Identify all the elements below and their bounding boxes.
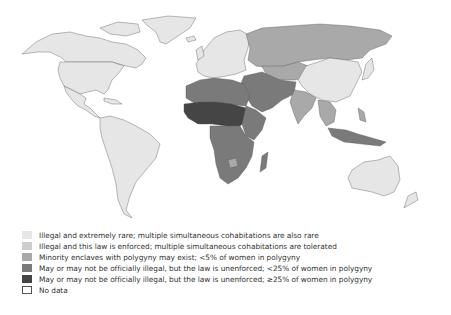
region-botswana — [228, 158, 238, 168]
legend-item: May or may not be officially illegal, bu… — [22, 274, 372, 285]
region-new-zealand — [404, 192, 418, 208]
region-south-america — [100, 116, 160, 218]
legend-swatch — [22, 253, 32, 261]
legend-label: May or may not be officially illegal, bu… — [39, 275, 372, 284]
region-caribbean — [104, 98, 122, 104]
legend-item: Illegal and extremely rare; multiple sim… — [22, 230, 372, 241]
legend-label: Illegal and this law is enforced; multip… — [39, 242, 337, 251]
region-north-africa — [186, 78, 250, 106]
legend-swatch — [22, 242, 32, 250]
region-west-africa — [184, 102, 250, 126]
region-indonesia — [328, 128, 386, 146]
legend-label: No data — [39, 286, 68, 295]
legend-swatch — [22, 231, 32, 239]
region-australia — [348, 156, 400, 196]
region-canada-arctic — [100, 22, 140, 36]
legend-item: May or may not be officially illegal, bu… — [22, 263, 372, 274]
legend-item: Illegal and this law is enforced; multip… — [22, 241, 372, 252]
legend-swatch — [22, 275, 32, 283]
region-iceland — [186, 36, 196, 42]
region-japan — [362, 58, 374, 80]
legend-item: Minority enclaves with polygyny may exis… — [22, 252, 372, 263]
legend-swatch — [22, 264, 32, 272]
region-madagascar — [260, 152, 268, 172]
legend: Illegal and extremely rare; multiple sim… — [22, 230, 372, 296]
region-europe — [196, 30, 250, 78]
legend-label: Minority enclaves with polygyny may exis… — [39, 253, 300, 262]
region-se-asia — [318, 100, 336, 126]
legend-label: May or may not be officially illegal, bu… — [39, 264, 372, 273]
legend-item: No data — [22, 285, 372, 296]
legend-label: Illegal and extremely rare; multiple sim… — [39, 231, 319, 240]
legend-swatch — [22, 286, 32, 294]
world-map — [0, 0, 451, 225]
region-philippines — [358, 108, 366, 122]
